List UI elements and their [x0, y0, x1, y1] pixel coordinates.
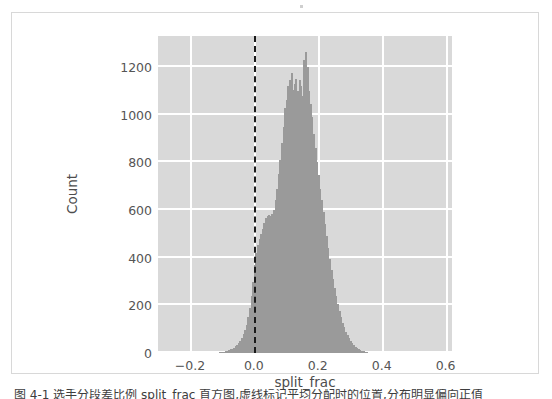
y-tick-label: 400 — [128, 250, 152, 265]
x-tick-label: 0.2 — [308, 358, 328, 373]
y-tick-label: 600 — [128, 202, 152, 217]
histogram-bar — [366, 352, 368, 353]
figure-frame: 020040060080010001200 −0.20.00.20.40.6 C… — [11, 12, 539, 374]
x-tick-label: 0.0 — [244, 358, 264, 373]
x-axis-label: split_frac — [274, 374, 335, 390]
x-tick-label: −0.2 — [175, 358, 205, 373]
figure-caption: 图 4-1 选手分段差比例 split_frac 直方图,虚线标记平均分配时的位… — [14, 389, 534, 399]
y-tick-label: 800 — [128, 155, 152, 170]
y-tick-label: 1000 — [120, 107, 152, 122]
y-axis-tick-labels: 020040060080010001200 — [108, 36, 152, 353]
page-top-mark — [300, 5, 303, 8]
plot-area — [158, 36, 452, 353]
x-tick-label: 0.4 — [372, 358, 392, 373]
zero-reference-dashed-line — [254, 36, 256, 353]
x-tick-label: 0.6 — [436, 358, 456, 373]
y-tick-label: 1200 — [120, 59, 152, 74]
y-tick-label: 200 — [128, 298, 152, 313]
histogram-bars — [158, 36, 452, 353]
y-axis-label: Count — [64, 174, 80, 214]
figure-screenshot: 020040060080010001200 −0.20.00.20.40.6 C… — [0, 0, 552, 399]
y-tick-label: 0 — [144, 346, 152, 361]
